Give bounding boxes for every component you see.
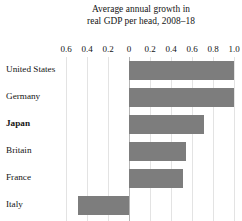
bar-row: France: [0, 165, 242, 192]
chart-title: Average annual growth in real GDP per he…: [48, 3, 234, 27]
chart-title-line-1: Average annual growth in: [48, 3, 234, 15]
bar-row: United States: [0, 57, 242, 84]
bar: [129, 142, 186, 161]
x-axis-tick-labels: 0.60.40.200.20.40.60.81.0: [0, 44, 242, 57]
bar-row: Japan: [0, 111, 242, 138]
x-tick-label: 0.4: [81, 44, 92, 55]
plot-area: 0.60.40.200.20.40.60.81.0 United StatesG…: [0, 44, 242, 221]
bar-row: Italy: [0, 192, 242, 219]
x-tick-label: 0.6: [60, 44, 71, 55]
bar: [129, 88, 234, 107]
category-label: Germany: [6, 90, 118, 103]
x-tick-label: 0.6: [186, 44, 197, 55]
category-label: Britain: [6, 144, 118, 157]
x-tick-label: 0.8: [207, 44, 218, 55]
bars-layer: United StatesGermanyJapanBritainFranceIt…: [0, 57, 242, 221]
bar: [78, 196, 129, 215]
bar: [129, 169, 183, 188]
gdp-growth-bar-chart: Average annual growth in real GDP per he…: [0, 0, 242, 221]
bar-row: Germany: [0, 84, 242, 111]
x-tick-label: 0: [127, 44, 132, 55]
bar: [129, 61, 234, 80]
bar: [129, 115, 204, 134]
x-tick-label: 1.0: [228, 44, 239, 55]
x-tick-label: 0.2: [144, 44, 155, 55]
chart-title-line-2: real GDP per head, 2008–18: [48, 15, 234, 27]
category-label: United States: [6, 63, 118, 76]
x-tick-label: 0.2: [102, 44, 113, 55]
bar-row: Britain: [0, 138, 242, 165]
category-label: France: [6, 171, 118, 184]
x-tick-label: 0.4: [165, 44, 176, 55]
category-label: Japan: [6, 117, 118, 130]
